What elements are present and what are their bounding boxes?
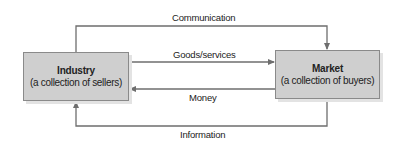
information-arrow xyxy=(76,99,327,126)
market-title: Market xyxy=(312,63,343,75)
industry-market-diagram: Industry (a collection of sellers) Marke… xyxy=(0,0,404,149)
information-label: Information xyxy=(180,129,225,140)
industry-subtitle: (a collection of sellers) xyxy=(30,77,122,89)
industry-title: Industry xyxy=(57,65,95,77)
industry-box: Industry (a collection of sellers) xyxy=(23,52,129,101)
goods-services-label: Goods/services xyxy=(173,49,236,60)
money-label: Money xyxy=(189,92,217,103)
communication-label: Communication xyxy=(172,12,235,23)
market-box: Market (a collection of buyers) xyxy=(275,50,380,99)
market-subtitle: (a collection of buyers) xyxy=(281,75,374,87)
